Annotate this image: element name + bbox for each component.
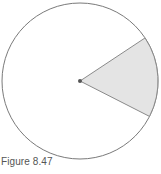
center-point (78, 79, 82, 83)
figure: Figure 8.47 (0, 0, 161, 174)
circle-sector-diagram (0, 0, 161, 174)
figure-caption: Figure 8.47 (1, 156, 53, 167)
